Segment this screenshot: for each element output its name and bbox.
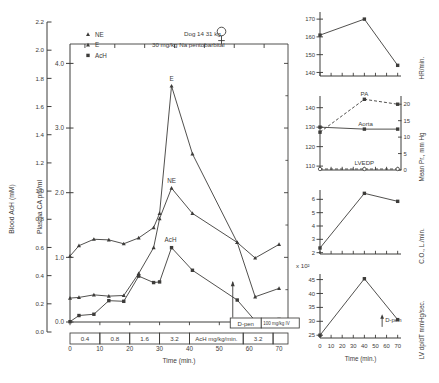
main-x-ticklabel: 40 <box>186 345 194 352</box>
dpdt-series-line <box>320 279 398 335</box>
dpdt-x-ticklabel: 20 <box>339 343 346 349</box>
pressure-series-marker <box>318 167 321 170</box>
main-y-ticklabel: 0.0 <box>55 318 64 325</box>
curve-label-e: E <box>169 75 173 82</box>
series-marker-ne <box>170 186 174 190</box>
pressure-label-pa: PA <box>361 90 370 97</box>
hr-y-ticklabel: 150 <box>305 52 316 58</box>
dose-segment-empty <box>273 333 288 344</box>
hr-y-ticklabel: 160 <box>305 34 316 40</box>
series-marker-ach <box>170 246 173 249</box>
dpdt-x-axis-label: Time (min.) <box>345 355 377 363</box>
co-series-marker <box>396 200 399 203</box>
hr-series-marker <box>363 17 366 20</box>
dpdt-series-marker <box>318 334 321 337</box>
scientific-figure: 0.01.02.03.04.0010203040506070Time (min.… <box>0 0 439 383</box>
pressure-series-marker <box>396 127 399 130</box>
subject-annotation: Dog 14 31 kg <box>184 30 221 37</box>
dpdt-y-ticklabel: 35 <box>308 304 315 310</box>
legend-label-e: E <box>95 41 99 48</box>
hr-series-marker <box>396 64 399 67</box>
pressure-series-line <box>320 127 398 129</box>
dpdt-y-ticklabel: 40 <box>308 291 315 297</box>
anesthetic-annotation: 30 mg/kg Na pentobarbital <box>152 41 225 48</box>
co-axis-title: C.O., L./min. <box>418 228 425 264</box>
dpdt-x-ticklabel: 10 <box>328 343 335 349</box>
ach-axis-ticklabel: 1.2 <box>35 159 44 166</box>
dpen-dose-label: 100 mg/kg IV <box>263 321 290 326</box>
pressure-series-marker <box>318 125 321 128</box>
ach-axis-ticklabel: 0.2 <box>35 300 44 307</box>
dose-segment-label: 1.6 <box>140 335 149 342</box>
dose-segment-label: 3.2 <box>170 335 179 342</box>
main-x-ticklabel: 50 <box>216 345 224 352</box>
series-marker-ach <box>68 320 71 323</box>
dose-unit-label: AcH mg/kg/min. <box>195 336 238 342</box>
hr-series-line <box>320 19 398 65</box>
dpdt-x-ticklabel: 70 <box>394 343 401 349</box>
dose-segment-label: 3.2 <box>254 335 263 342</box>
main-x-ticklabel: 60 <box>246 345 254 352</box>
legend-marker-e <box>86 43 90 47</box>
main-x-ticklabel: 30 <box>156 345 164 352</box>
pressure-y-ticklabel: 120 <box>305 144 316 150</box>
main-x-ticklabel: 20 <box>126 345 134 352</box>
ach-axis-ticklabel: 0.0 <box>35 328 44 335</box>
dpen-box-label: D-pen <box>238 321 254 327</box>
series-marker-ach <box>152 281 155 284</box>
dpdt-exponent-label: x 10² <box>296 262 310 269</box>
ach-axis-title: Blood AcH (mM) <box>8 184 16 233</box>
figure-canvas: 0.01.02.03.04.0010203040506070Time (min.… <box>0 0 439 383</box>
co-y-ticklabel: 3 <box>312 236 316 242</box>
hr-y-ticklabel: 170 <box>305 16 316 22</box>
series-marker-ach <box>158 280 161 283</box>
series-marker-ach <box>77 314 80 317</box>
pressure-right-ticklabel: 10 <box>404 134 411 140</box>
pressure-right-ticklabel: 0 <box>404 167 408 173</box>
pressure-series-marker <box>363 127 366 130</box>
series-marker-ach <box>122 300 125 303</box>
dose-segment-label: 0.4 <box>81 335 90 342</box>
series-marker-e <box>152 226 156 230</box>
dpdt-y-ticklabel: 25 <box>308 332 315 338</box>
co-series-marker <box>363 192 366 195</box>
pressure-y-ticklabel: 140 <box>305 105 316 111</box>
legend-marker-ach <box>86 54 89 57</box>
ach-axis-ticklabel: 1.8 <box>35 75 44 82</box>
ach-axis-ticklabel: 0.4 <box>35 272 44 279</box>
co-y-ticklabel: 6 <box>312 196 316 202</box>
series-marker-ne <box>235 240 239 244</box>
ach-axis-ticklabel: 2.2 <box>35 18 44 25</box>
main-y-ticklabel: 2.0 <box>55 189 64 196</box>
dose-segment-label: 0.8 <box>110 335 119 342</box>
dpdt-x-ticklabel: 30 <box>350 343 357 349</box>
co-y-ticklabel: 4 <box>312 223 316 229</box>
series-line-e <box>70 86 279 258</box>
series-marker-ach <box>236 298 239 301</box>
pressure-y-ticklabel: 110 <box>306 163 316 169</box>
series-line-ach <box>70 248 279 322</box>
ca-axis-title: Plasma CA pm/ml <box>36 180 44 234</box>
legend-label-ne: NE <box>95 31 104 38</box>
main-x-axis-label: Time (min.) <box>162 357 195 365</box>
ach-axis-ticklabel: 1.6 <box>35 103 44 110</box>
pressure-label-aorta: Aorta <box>358 120 373 127</box>
pressure-series-marker <box>363 167 366 170</box>
main-y-ticklabel: 1.0 <box>55 254 64 261</box>
pressure-y-ticklabel: 130 <box>305 124 316 130</box>
dpdt-x-ticklabel: 50 <box>372 343 379 349</box>
main-x-ticklabel: 10 <box>96 345 104 352</box>
pressure-series-marker <box>318 130 321 133</box>
dpdt-dpen-label: D-pen <box>385 317 401 323</box>
dpdt-dpen-arrow-head <box>380 314 384 318</box>
pressure-right-ticklabel: 5 <box>404 151 408 157</box>
series-marker-e <box>170 84 174 88</box>
curve-label-ach: AcH <box>165 236 177 243</box>
main-y-ticklabel: 4.0 <box>55 60 64 67</box>
co-series-marker <box>318 246 321 249</box>
pressure-series-marker <box>396 103 399 106</box>
pressure-label-lvedp: LVEDP <box>355 159 375 166</box>
main-x-ticklabel: 0 <box>68 345 72 352</box>
dpdt-x-ticklabel: 40 <box>361 343 368 349</box>
legend-label-ach: AcH <box>95 52 107 59</box>
